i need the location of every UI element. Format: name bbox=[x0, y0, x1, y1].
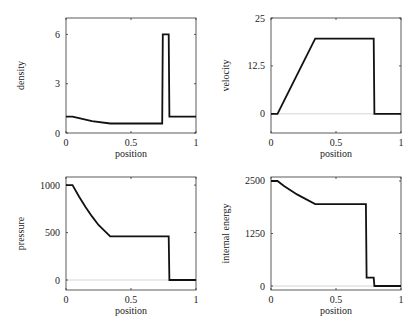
y-tick-label: 0 bbox=[55, 128, 60, 139]
y-axis-label: density bbox=[15, 61, 26, 90]
x-tick-label: 1 bbox=[194, 137, 199, 148]
data-curve bbox=[66, 185, 196, 280]
y-axis-label: pressure bbox=[15, 216, 26, 250]
x-tick-label: 0.5 bbox=[330, 294, 343, 305]
y-tick-label: 12.5 bbox=[248, 60, 266, 71]
shock-tube-figure: 00.51036positiondensity 00.51012.525posi… bbox=[0, 0, 415, 333]
pressure-panel: 00.5105001000positionpressure bbox=[15, 177, 199, 316]
x-tick-label: 0 bbox=[269, 294, 274, 305]
x-axis-label: position bbox=[320, 148, 352, 159]
y-tick-label: 25 bbox=[255, 13, 265, 24]
y-tick-label: 0 bbox=[55, 275, 60, 286]
x-axis-label: position bbox=[115, 305, 147, 316]
x-tick-label: 0.5 bbox=[125, 137, 138, 148]
x-tick-label: 1 bbox=[399, 294, 404, 305]
x-tick-label: 0 bbox=[64, 294, 69, 305]
x-tick-label: 0 bbox=[64, 137, 69, 148]
data-curve bbox=[271, 181, 401, 286]
y-axis-label: velocity bbox=[220, 59, 231, 91]
x-tick-label: 0 bbox=[269, 137, 274, 148]
y-tick-label: 0 bbox=[260, 281, 265, 292]
x-tick-label: 1 bbox=[399, 137, 404, 148]
plot-frame bbox=[271, 18, 401, 133]
y-tick-label: 0 bbox=[260, 108, 265, 119]
plot-frame bbox=[66, 177, 196, 290]
y-tick-label: 1000 bbox=[40, 180, 60, 191]
x-tick-label: 0.5 bbox=[330, 137, 343, 148]
density-panel: 00.51036positiondensity bbox=[15, 18, 199, 159]
y-tick-label: 2500 bbox=[245, 175, 265, 186]
y-tick-label: 1250 bbox=[245, 228, 265, 239]
y-axis-label: internal energy bbox=[220, 203, 231, 263]
x-axis-label: position bbox=[320, 305, 352, 316]
y-tick-label: 6 bbox=[55, 29, 60, 40]
internal-energy-panel: 00.51012502500positioninternal energy bbox=[220, 175, 404, 316]
y-tick-label: 3 bbox=[55, 78, 60, 89]
data-curve bbox=[66, 34, 196, 123]
velocity-panel: 00.51012.525positionvelocity bbox=[220, 13, 404, 160]
y-tick-label: 500 bbox=[45, 227, 60, 238]
data-curve bbox=[271, 39, 401, 114]
x-tick-label: 0.5 bbox=[125, 294, 138, 305]
x-axis-label: position bbox=[115, 148, 147, 159]
plot-frame bbox=[271, 177, 401, 290]
x-tick-label: 1 bbox=[194, 294, 199, 305]
